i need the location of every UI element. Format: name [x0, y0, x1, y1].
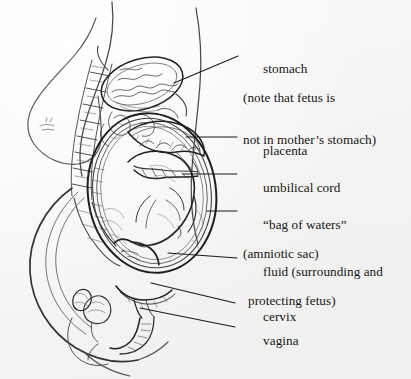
label-vagina-line1: vagina [263, 333, 298, 348]
label-layer: stomach (note that fetus is not in mothe… [0, 0, 411, 379]
diagram-page: stomach (note that fetus is not in mothe… [0, 0, 411, 379]
label-fluid-line1: fluid (surrounding and [263, 264, 383, 279]
label-bag-of-waters-line1: “bag of waters” [263, 217, 347, 232]
label-vagina: vagina [243, 320, 299, 363]
label-umbilical-cord-line1: umbilical cord [263, 180, 340, 195]
label-stomach-line1: stomach [263, 61, 307, 76]
label-placenta-line1: placenta [263, 143, 307, 158]
label-stomach-line2: (note that fetus is [243, 91, 376, 105]
